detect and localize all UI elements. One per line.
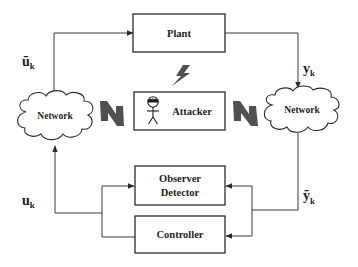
right-network-label: Network bbox=[284, 105, 320, 115]
wire-u-to-left-network bbox=[55, 146, 102, 213]
signal-u-tilde: ũk bbox=[22, 54, 35, 71]
attacker-label: Attacker bbox=[172, 106, 212, 117]
signal-u: uk bbox=[22, 193, 35, 210]
detector-label: Detector bbox=[161, 187, 200, 198]
observer-detector-block: Observer Detector bbox=[135, 166, 225, 205]
lightning-bolt-icon bbox=[233, 101, 258, 126]
ncs-attack-diagram: Plant Attacker Observer Detector Control… bbox=[0, 0, 358, 267]
controller-block: Controller bbox=[135, 216, 225, 253]
attacker-block: Attacker bbox=[134, 92, 225, 130]
wire-u-tilde-to-plant bbox=[54, 33, 133, 95]
signal-y-tilde: ỹk bbox=[303, 188, 315, 206]
left-network-label: Network bbox=[37, 111, 73, 121]
right-network-cloud: Network bbox=[264, 86, 339, 132]
observer-label: Observer bbox=[159, 173, 201, 184]
lightning-bolt-icon bbox=[100, 101, 124, 126]
left-network-cloud: Network bbox=[18, 91, 93, 140]
lightning-bolt-icon bbox=[172, 65, 190, 86]
signal-y: yk bbox=[303, 61, 315, 78]
wire-controller-out bbox=[102, 186, 135, 237]
controller-label: Controller bbox=[156, 229, 203, 240]
wire-y-tilde-trunk bbox=[252, 133, 298, 210]
plant-block: Plant bbox=[133, 14, 225, 52]
wire-plant-to-right-network bbox=[225, 33, 298, 88]
plant-label: Plant bbox=[167, 28, 191, 39]
